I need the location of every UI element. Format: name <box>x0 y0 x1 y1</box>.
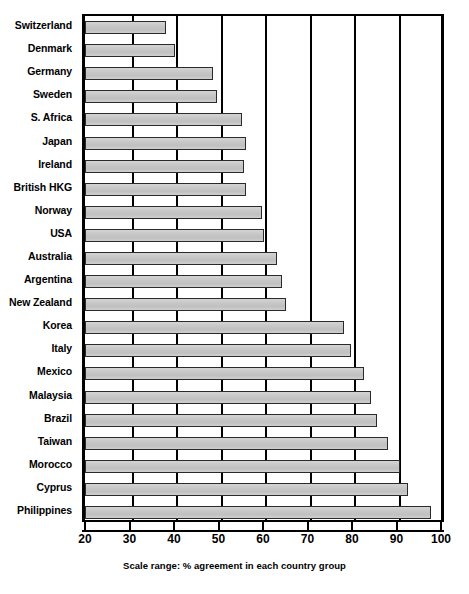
x-tick-label-40: 40 <box>154 532 194 546</box>
category-label: Italy <box>0 343 72 354</box>
horizontal-bar-chart: SwitzerlandDenmarkGermanySwedenS. Africa… <box>0 0 469 594</box>
bars-layer <box>85 16 441 520</box>
x-tick-90 <box>396 522 398 531</box>
category-label: Korea <box>0 320 72 331</box>
x-tick-30 <box>129 522 131 531</box>
bar <box>85 44 175 57</box>
bar <box>85 90 217 103</box>
bar <box>85 183 246 196</box>
category-label: Switzerland <box>0 20 72 31</box>
x-tick-20 <box>84 522 86 531</box>
category-label: British HKG <box>0 182 72 193</box>
category-label: Denmark <box>0 43 72 54</box>
bar <box>85 460 400 473</box>
x-tick-label-80: 80 <box>332 532 372 546</box>
bar <box>85 506 431 519</box>
category-label: Taiwan <box>0 436 72 447</box>
x-tick-label-30: 30 <box>110 532 150 546</box>
bar <box>85 414 377 427</box>
bar <box>85 21 166 34</box>
x-tick-40 <box>173 522 175 531</box>
category-label: USA <box>0 228 72 239</box>
bar <box>85 321 344 334</box>
bar <box>85 252 277 265</box>
category-label: New Zealand <box>0 297 72 308</box>
bar <box>85 137 246 150</box>
category-label: Malaysia <box>0 390 72 401</box>
x-tick-label-50: 50 <box>199 532 239 546</box>
x-axis <box>82 522 444 532</box>
category-label: Norway <box>0 205 72 216</box>
bar <box>85 113 242 126</box>
category-label: Mexico <box>0 366 72 377</box>
category-label: S. Africa <box>0 112 72 123</box>
category-label: Japan <box>0 136 72 147</box>
bar <box>85 437 388 450</box>
bar <box>85 229 264 242</box>
category-label: Germany <box>0 66 72 77</box>
category-label: Ireland <box>0 159 72 170</box>
bar <box>85 344 351 357</box>
x-tick-100 <box>440 522 442 531</box>
bar <box>85 391 371 404</box>
bar <box>85 206 262 219</box>
category-label: Sweden <box>0 89 72 100</box>
bar <box>85 367 364 380</box>
x-tick-label-70: 70 <box>288 532 328 546</box>
category-label: Brazil <box>0 413 72 424</box>
category-label: Australia <box>0 251 72 262</box>
x-tick-label-90: 90 <box>377 532 417 546</box>
bar <box>85 483 408 496</box>
category-label: Argentina <box>0 274 72 285</box>
bar <box>85 67 213 80</box>
category-label: Philippines <box>0 505 72 516</box>
bar <box>85 275 282 288</box>
category-label-column: SwitzerlandDenmarkGermanySwedenS. Africa… <box>0 14 78 522</box>
x-tick-70 <box>307 522 309 531</box>
x-tick-label-60: 60 <box>243 532 283 546</box>
x-tick-labels: 2030405060708090100 <box>0 532 469 552</box>
x-tick-label-100: 100 <box>421 532 461 546</box>
x-tick-label-20: 20 <box>65 532 105 546</box>
bar <box>85 298 286 311</box>
bar <box>85 160 244 173</box>
category-label: Cyprus <box>0 482 72 493</box>
x-tick-60 <box>262 522 264 531</box>
plot-area <box>82 14 444 522</box>
x-axis-caption: Scale range: % agreement in each country… <box>0 560 469 571</box>
x-tick-50 <box>218 522 220 531</box>
category-label: Morocco <box>0 459 72 470</box>
x-tick-80 <box>351 522 353 531</box>
